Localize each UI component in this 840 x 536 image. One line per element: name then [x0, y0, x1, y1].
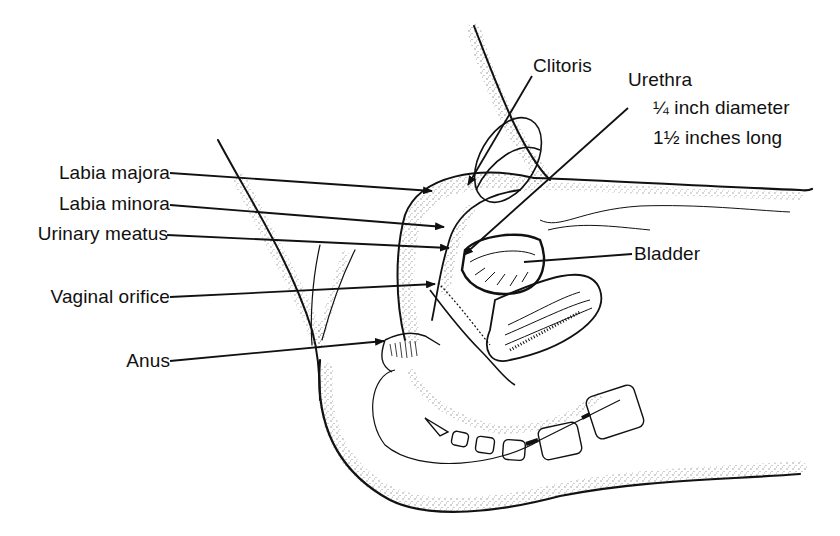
label-vaginal-orifice: Vaginal orifice	[51, 286, 170, 308]
label-labia-minora: Labia minora	[59, 193, 170, 215]
sacrum-coccyx	[425, 383, 646, 460]
label-urinary-meatus: Urinary meatus	[38, 223, 168, 245]
label-bladder: Bladder	[634, 243, 700, 265]
anus-leader	[170, 341, 384, 361]
labia-minora-leader	[170, 205, 444, 227]
anatomy-diagram	[0, 0, 840, 536]
label-anus: Anus	[126, 350, 170, 372]
bladder-leader	[524, 254, 632, 262]
bladder-shape	[462, 206, 790, 294]
label-clitoris: Clitoris	[533, 55, 592, 77]
label-labia-majora: Labia majora	[59, 162, 170, 184]
label-urethra-length: 1½ inches long	[653, 127, 782, 149]
uterus	[487, 275, 601, 361]
pubic-bone	[461, 106, 555, 214]
label-urethra-diameter: ¼ inch diameter	[653, 97, 790, 119]
label-urethra: Urethra	[628, 69, 692, 91]
labia-majora-leader	[170, 173, 432, 191]
leader-lines	[167, 76, 632, 361]
